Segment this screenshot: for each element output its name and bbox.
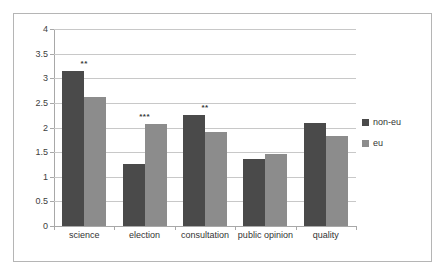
y-axis-tick-labels: 00.511.522.533.54 [14,29,48,226]
bar-non-eu-quality [304,123,326,226]
gridline [54,29,356,30]
x-axis-tick-label-science: science [69,230,100,240]
legend-label: eu [373,138,383,148]
y-axis-tick-label: 2 [43,123,48,133]
y-axis-tickmark [50,103,54,104]
y-axis-tick-label: 0 [43,221,48,231]
bar-eu-science [84,97,106,226]
y-axis-tick-label: 4 [43,24,48,34]
y-axis-tickmark [50,78,54,79]
x-axis-end-tick [356,226,357,230]
bar-non-eu-public-opinion [243,159,265,226]
y-axis-tick-label: 2.5 [35,98,48,108]
gridline [54,226,356,227]
legend-label: non-eu [373,117,401,127]
y-axis-tickmark [50,152,54,153]
y-axis-tick-label: 1 [43,172,48,182]
y-axis-tickmark [50,29,54,30]
bar-eu-quality [326,136,348,226]
chart-screenshot: 00.511.522.533.54 ******* scienceelectio… [0,0,445,277]
y-axis-tickmark [50,177,54,178]
legend-swatch-icon [362,119,369,126]
x-axis-tick-label-consultation: consultation [181,230,229,240]
significance-marker-science: ** [81,59,88,68]
legend-swatch-icon [362,140,369,147]
legend-item-eu[interactable]: eu [362,138,432,148]
x-axis-tick-labels: scienceelectionconsultationpublic opinio… [54,230,356,252]
x-axis-tick-label-public-opinion: public opinion [238,230,293,240]
bar-eu-consultation [205,132,227,226]
y-axis-tickmark [50,54,54,55]
significance-marker-consultation: ** [201,103,208,112]
y-axis-tickmark [50,226,54,227]
significance-marker-election: *** [139,112,150,121]
chart-legend: non-eueu [362,117,432,159]
y-axis-tick-label: 3.5 [35,49,48,59]
gridline [54,78,356,79]
bar-non-eu-consultation [183,115,205,226]
bar-eu-election [145,124,167,226]
x-axis-tick-label-election: election [129,230,160,240]
y-axis-tickmark [50,128,54,129]
y-axis-tick-label: 0.5 [35,196,48,206]
y-axis-tick-label: 3 [43,73,48,83]
gridline [54,54,356,55]
bar-non-eu-election [123,164,145,226]
y-axis-tickmark [50,201,54,202]
bar-non-eu-science [62,71,84,226]
bar-eu-public-opinion [265,154,287,226]
chart-frame: 00.511.522.533.54 ******* scienceelectio… [13,13,432,262]
y-axis-tick-label: 1.5 [35,147,48,157]
legend-item-non-eu[interactable]: non-eu [362,117,432,127]
plot-area: ******* [54,29,356,226]
x-axis-tick-label-quality: quality [313,230,339,240]
